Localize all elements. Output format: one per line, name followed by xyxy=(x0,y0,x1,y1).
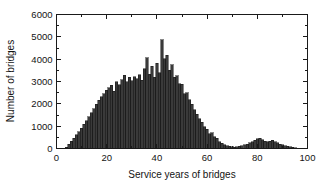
histogram-bar xyxy=(208,134,211,149)
y-tick-label: 2000 xyxy=(31,98,52,109)
histogram-bar xyxy=(90,113,93,149)
histogram-bar xyxy=(163,59,166,149)
histogram-bar xyxy=(110,85,113,148)
histogram-bar xyxy=(123,75,126,148)
histogram-bar xyxy=(146,58,149,149)
histogram-bar xyxy=(105,90,108,148)
histogram-bar xyxy=(176,76,179,149)
histogram-bar xyxy=(221,143,224,148)
histogram-bar xyxy=(244,145,247,149)
y-tick-label: 5000 xyxy=(31,31,52,42)
y-tick-label: 1000 xyxy=(31,121,52,132)
histogram-bar xyxy=(113,91,116,148)
histogram-bar xyxy=(264,141,267,148)
histogram-bar xyxy=(246,144,249,148)
histogram-bar xyxy=(153,77,156,148)
histogram-bar xyxy=(108,88,111,149)
histogram-bar xyxy=(83,124,86,148)
x-tick-label: 0 xyxy=(54,152,59,163)
histogram-bar xyxy=(218,142,221,149)
histogram-bar xyxy=(261,140,264,149)
histogram-bar xyxy=(88,117,91,149)
histogram-bar xyxy=(198,119,201,149)
histogram-bar xyxy=(70,141,73,148)
histogram-bar xyxy=(133,77,136,149)
histogram-bar xyxy=(183,94,186,149)
histogram-bar xyxy=(173,77,176,148)
x-tick-label: 60 xyxy=(202,152,213,163)
histogram-bar xyxy=(274,142,277,149)
histogram-bar xyxy=(269,141,272,148)
histogram-bar xyxy=(73,138,76,149)
histogram-bar xyxy=(143,69,146,149)
histogram-bar xyxy=(138,75,141,149)
x-axis-title: Service years of bridges xyxy=(128,169,235,180)
histogram-bar xyxy=(276,143,279,149)
histogram-bar xyxy=(156,63,159,148)
histogram-bar xyxy=(158,73,161,149)
histogram-bar xyxy=(136,79,139,149)
histogram-bar xyxy=(141,80,144,148)
histogram-bar xyxy=(78,132,81,149)
histogram-bar xyxy=(251,142,254,149)
histogram-bar xyxy=(254,140,257,148)
histogram-bar xyxy=(168,70,171,148)
histogram-bar xyxy=(213,137,216,149)
x-tick-label: 100 xyxy=(300,152,316,163)
histogram-bar xyxy=(131,81,134,149)
histogram-bar xyxy=(100,97,103,149)
histogram-bar xyxy=(266,142,269,149)
histogram-bar xyxy=(151,66,154,148)
histogram-bar xyxy=(171,65,174,149)
histogram-bar xyxy=(115,82,118,149)
histogram-bar xyxy=(161,40,164,149)
histogram-bar xyxy=(188,100,191,149)
histogram-bar xyxy=(271,140,274,148)
histogram-bar xyxy=(95,104,98,148)
histogram-bar xyxy=(181,84,184,148)
y-axis-tick-labels: 0100020003000400050006000 xyxy=(31,9,52,154)
x-axis-tick-labels: 020406080100 xyxy=(54,152,316,163)
histogram-bar xyxy=(103,94,106,149)
y-tick-label: 3000 xyxy=(31,76,52,87)
histogram-bar xyxy=(196,114,199,148)
histogram-chart: 020406080100 0100020003000400050006000 S… xyxy=(0,0,328,183)
x-tick-label: 20 xyxy=(101,152,112,163)
histogram-bar xyxy=(201,122,204,148)
histogram-bar xyxy=(121,80,124,149)
chart-figure: 020406080100 0100020003000400050006000 S… xyxy=(0,0,328,183)
histogram-bar xyxy=(279,144,282,148)
x-tick-label: 80 xyxy=(252,152,263,163)
histogram-bar xyxy=(148,74,151,148)
histogram-bar xyxy=(186,93,189,149)
histogram-bar xyxy=(93,109,96,149)
histogram-bar xyxy=(128,77,131,148)
histogram-bar xyxy=(216,138,219,148)
histogram-bar xyxy=(178,84,181,149)
y-axis-title: Number of bridges xyxy=(5,40,16,122)
histogram-bar xyxy=(249,143,252,149)
histogram-bar xyxy=(193,110,196,149)
histogram-bar xyxy=(126,82,129,149)
histogram-bar xyxy=(211,133,214,149)
y-tick-label: 0 xyxy=(47,143,52,154)
histogram-bar xyxy=(203,127,206,149)
histogram-bar xyxy=(166,55,169,148)
histogram-bar xyxy=(98,100,101,148)
y-tick-label: 4000 xyxy=(31,54,52,65)
histogram-bar xyxy=(223,145,226,149)
histogram-bar xyxy=(191,104,194,148)
y-tick-label: 6000 xyxy=(31,9,52,20)
histogram-bar xyxy=(75,135,78,149)
histogram-bar xyxy=(68,144,71,148)
histogram-bar xyxy=(118,85,121,149)
histogram-bar xyxy=(85,121,88,149)
x-tick-label: 40 xyxy=(152,152,163,163)
histogram-bar xyxy=(259,138,262,148)
histogram-bar xyxy=(80,128,83,148)
